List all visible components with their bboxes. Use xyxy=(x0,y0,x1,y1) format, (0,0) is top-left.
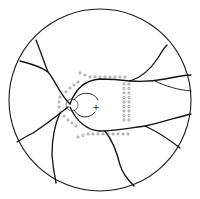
laser-spot xyxy=(123,119,125,121)
laser-spot xyxy=(63,115,65,117)
laser-spot xyxy=(59,96,61,98)
laser-spot xyxy=(128,114,130,116)
laser-spot xyxy=(123,105,125,107)
laser-spot xyxy=(82,134,84,136)
laser-spot xyxy=(124,76,126,78)
laser-spot xyxy=(97,133,99,135)
laser-spot xyxy=(99,76,101,78)
laser-spot xyxy=(58,106,60,108)
laser-spot xyxy=(128,92,130,94)
laser-spot xyxy=(117,133,119,135)
laser-spot xyxy=(112,133,114,135)
laser-spot xyxy=(69,87,71,89)
laser-spot xyxy=(128,96,130,98)
laser-spot xyxy=(123,101,125,103)
laser-spot xyxy=(89,76,91,78)
laser-spot xyxy=(77,81,79,83)
laser-spot xyxy=(67,119,69,121)
laser-spot xyxy=(79,72,81,74)
laser-spot xyxy=(102,133,104,135)
optic-disc xyxy=(66,99,78,111)
laser-spot xyxy=(87,133,89,135)
laser-spot xyxy=(92,133,94,135)
laser-spot xyxy=(122,133,124,135)
laser-spot xyxy=(128,87,130,89)
laser-spot xyxy=(123,87,125,89)
laser-spot xyxy=(123,96,125,98)
laser-spot xyxy=(65,91,67,93)
laser-spot xyxy=(128,119,130,121)
laser-spot xyxy=(123,83,125,85)
fundus-boundary xyxy=(9,9,191,191)
laser-spot xyxy=(77,136,79,138)
laser-spot xyxy=(94,76,96,78)
laser-spot xyxy=(128,101,130,103)
laser-spot xyxy=(114,76,116,78)
fundus-diagram: + xyxy=(0,0,200,199)
laser-spot xyxy=(75,125,77,127)
laser-spot xyxy=(128,105,130,107)
laser-spot xyxy=(119,76,121,78)
laser-spot xyxy=(128,83,130,85)
laser-spot xyxy=(127,133,129,135)
laser-spot xyxy=(84,74,86,76)
laser-spot xyxy=(73,84,75,86)
laser-spot xyxy=(123,114,125,116)
laser-spot xyxy=(123,92,125,94)
laser-spot xyxy=(123,110,125,112)
laser-spot xyxy=(71,122,73,124)
laser-spot xyxy=(58,101,60,103)
fovea-marker: + xyxy=(92,102,100,112)
laser-spot xyxy=(128,110,130,112)
laser-spot xyxy=(109,76,111,78)
laser-spot xyxy=(104,76,106,78)
